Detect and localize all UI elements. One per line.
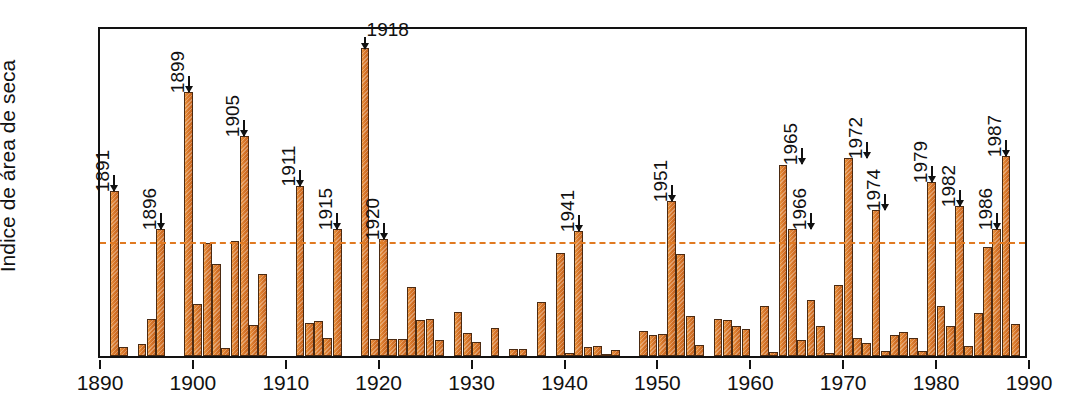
bar-1950 bbox=[658, 334, 667, 356]
bar-1985 bbox=[983, 247, 992, 356]
bar-1915 bbox=[333, 229, 342, 356]
x-tick-mark bbox=[192, 360, 194, 369]
bar-1939 bbox=[556, 253, 565, 356]
annotation-1915: 1915 bbox=[333, 29, 342, 229]
bar-1987 bbox=[1002, 156, 1011, 356]
bar-1958 bbox=[732, 326, 741, 356]
y-axis-title: Índice de área de seca bbox=[0, 0, 22, 331]
annotation-1979: 1979 bbox=[927, 29, 936, 182]
bar-1899 bbox=[184, 92, 193, 356]
bar-1894 bbox=[138, 344, 147, 356]
annotation-label: 1915 bbox=[315, 188, 337, 230]
bar-1975 bbox=[890, 335, 899, 356]
annotation-1974: 1974 bbox=[881, 29, 890, 210]
bar-1948 bbox=[639, 331, 648, 356]
x-tick-label: 1890 bbox=[77, 371, 124, 395]
bar-1954 bbox=[695, 345, 704, 356]
annotation-1905: 1905 bbox=[240, 29, 249, 136]
bar-1969 bbox=[834, 285, 843, 356]
annotation-label: 1941 bbox=[557, 190, 579, 232]
bar-1945 bbox=[611, 350, 620, 356]
bar-1932 bbox=[491, 328, 500, 356]
drought-area-index-chart: Índice de área de seca 010203040506070 1… bbox=[0, 0, 1079, 408]
bar-1914 bbox=[323, 338, 332, 356]
bar-1940 bbox=[565, 353, 574, 356]
annotation-label: 1905 bbox=[222, 95, 244, 137]
bar-1942 bbox=[584, 347, 593, 356]
x-tick-mark bbox=[564, 360, 566, 369]
bar-1929 bbox=[463, 333, 472, 356]
bar-1965 bbox=[797, 340, 806, 356]
bar-1973 bbox=[872, 210, 881, 356]
bar-1895 bbox=[147, 319, 156, 356]
bar-1959 bbox=[742, 329, 751, 356]
annotation-label: 1987 bbox=[984, 115, 1006, 157]
bar-1902 bbox=[212, 264, 221, 356]
bar-1951 bbox=[667, 201, 676, 356]
bar-1952 bbox=[676, 254, 685, 356]
bar-1977 bbox=[909, 338, 918, 356]
bar-1962 bbox=[769, 352, 778, 356]
annotation-1965: 1965 bbox=[797, 29, 806, 164]
bar-1901 bbox=[203, 243, 212, 356]
x-tick-mark bbox=[471, 360, 473, 369]
bar-1906 bbox=[249, 325, 258, 356]
bar-1937 bbox=[537, 302, 546, 356]
x-tick-label: 1930 bbox=[448, 371, 495, 395]
x-tick-label: 1950 bbox=[634, 371, 681, 395]
bar-1924 bbox=[416, 320, 425, 356]
bar-1935 bbox=[519, 349, 528, 356]
x-tick-label: 1920 bbox=[355, 371, 402, 395]
annotation-1896: 1896 bbox=[156, 29, 165, 229]
annotation-label: 1974 bbox=[863, 169, 885, 211]
bar-1949 bbox=[649, 335, 658, 356]
bar-1896 bbox=[156, 229, 165, 356]
x-tick-mark bbox=[842, 360, 844, 369]
bar-1903 bbox=[221, 348, 230, 356]
bar-1925 bbox=[426, 319, 435, 356]
x-tick-mark bbox=[935, 360, 937, 369]
annotation-label: 1965 bbox=[780, 123, 802, 165]
bar-1988 bbox=[1011, 324, 1020, 356]
annotation-1951: 1951 bbox=[667, 29, 676, 201]
x-tick-label: 1910 bbox=[262, 371, 309, 395]
bar-1912 bbox=[305, 323, 314, 356]
bar-1979 bbox=[927, 182, 936, 356]
bar-1930 bbox=[472, 342, 481, 356]
bar-1972 bbox=[862, 343, 871, 356]
bar-1926 bbox=[435, 340, 444, 356]
bar-1913 bbox=[314, 321, 323, 356]
annotation-1972: 1972 bbox=[862, 29, 871, 158]
bar-1941 bbox=[574, 231, 583, 356]
bar-1966 bbox=[807, 300, 816, 356]
bar-1981 bbox=[946, 326, 955, 356]
bar-1934 bbox=[509, 349, 518, 356]
annotation-label: 1966 bbox=[789, 188, 811, 230]
bar-1919 bbox=[370, 339, 379, 356]
bar-1964 bbox=[788, 229, 797, 356]
bar-1982 bbox=[955, 206, 964, 356]
x-tick-mark bbox=[1028, 360, 1030, 369]
bar-1961 bbox=[760, 306, 769, 356]
bar-1891 bbox=[110, 191, 119, 356]
bar-1983 bbox=[964, 346, 973, 356]
annotation-label: 1899 bbox=[167, 51, 189, 93]
bar-1921 bbox=[388, 339, 397, 356]
bar-1943 bbox=[593, 346, 602, 356]
annotation-1966: 1966 bbox=[807, 29, 816, 229]
bar-1904 bbox=[231, 241, 240, 356]
bar-1920 bbox=[379, 239, 388, 356]
x-tick-mark bbox=[749, 360, 751, 369]
bar-1953 bbox=[686, 316, 695, 356]
x-tick-label: 1900 bbox=[170, 371, 217, 395]
bar-1984 bbox=[974, 313, 983, 356]
plot-area: 010203040506070 189019001910192019301940… bbox=[98, 27, 1027, 358]
annotation-label: 1896 bbox=[139, 188, 161, 230]
bar-1907 bbox=[258, 274, 267, 356]
x-tick-mark bbox=[285, 360, 287, 369]
x-tick-label: 1960 bbox=[727, 371, 774, 395]
annotation-1920: 1920 bbox=[379, 29, 388, 239]
annotation-1987: 1987 bbox=[1002, 29, 1011, 156]
bar-1900 bbox=[193, 304, 202, 356]
bar-1923 bbox=[407, 287, 416, 356]
